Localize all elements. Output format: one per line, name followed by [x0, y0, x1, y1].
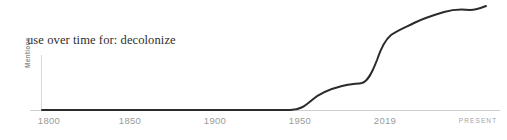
x-tick-2019: 2019: [374, 115, 396, 126]
x-tick-1850: 1850: [119, 115, 141, 126]
x-tick-1900: 1900: [204, 115, 226, 126]
x-tick-1800: 1800: [38, 115, 60, 126]
mentions-trend-line: [42, 6, 486, 110]
x-tick-1950: 1950: [289, 115, 311, 126]
x-tick-present: PRESENT: [459, 117, 497, 124]
use-over-time-chart: use over time for: decolonize Mentions 1…: [0, 0, 507, 140]
chart-plot-area: [0, 0, 507, 140]
